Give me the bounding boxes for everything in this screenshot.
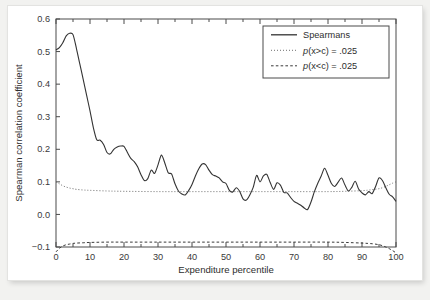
y-axis-tick-label: −0.1 [32, 242, 50, 252]
x-axis-tick-label: 70 [289, 252, 299, 262]
y-axis-tick-labels: −0.10.00.10.20.30.40.50.6 [32, 14, 50, 252]
y-axis-title: Spearman correlation coefficient [13, 64, 24, 202]
x-axis-tick-label: 50 [221, 252, 231, 262]
chart-legend: Spearmansp(x>c) = .025p(x<c) = .025 [263, 26, 389, 78]
y-axis-tick-label: 0.6 [37, 14, 50, 24]
x-axis-tick-label: 30 [153, 252, 163, 262]
spearman-correlation-chart: −0.10.00.10.20.30.40.50.6 01020304050607… [8, 6, 422, 280]
x-axis-tick-label: 100 [388, 252, 403, 262]
y-axis-tick-label: 0.5 [37, 47, 50, 57]
x-axis-tick-label: 20 [119, 252, 129, 262]
y-axis-tick-label: 0.2 [37, 144, 50, 154]
y-axis-tick-label: 0.4 [37, 79, 50, 89]
x-axis-title: Expenditure percentile [178, 264, 273, 275]
y-axis-tick-label: 0.1 [37, 177, 50, 187]
x-axis-tick-label: 60 [255, 252, 265, 262]
x-axis-tick-label: 80 [323, 252, 333, 262]
y-axis-tick-label: 0.0 [37, 210, 50, 220]
x-axis-tick-labels: 0102030405060708090100 [53, 252, 403, 262]
legend-label-2: p(x>c) = .025 [302, 46, 357, 56]
figure-card: −0.10.00.10.20.30.40.50.6 01020304050607… [8, 6, 422, 280]
legend-label-1: Spearmans [303, 30, 350, 40]
legend-label-3: p(x<c) = .025 [302, 61, 357, 71]
x-axis-tick-label: 0 [53, 252, 58, 262]
y-axis-tick-label: 0.3 [37, 112, 50, 122]
x-axis-tick-label: 10 [85, 252, 95, 262]
x-axis-tick-label: 90 [357, 252, 367, 262]
x-axis-tick-label: 40 [187, 252, 197, 262]
figure-root: −0.10.00.10.20.30.40.50.6 01020304050607… [0, 0, 430, 300]
